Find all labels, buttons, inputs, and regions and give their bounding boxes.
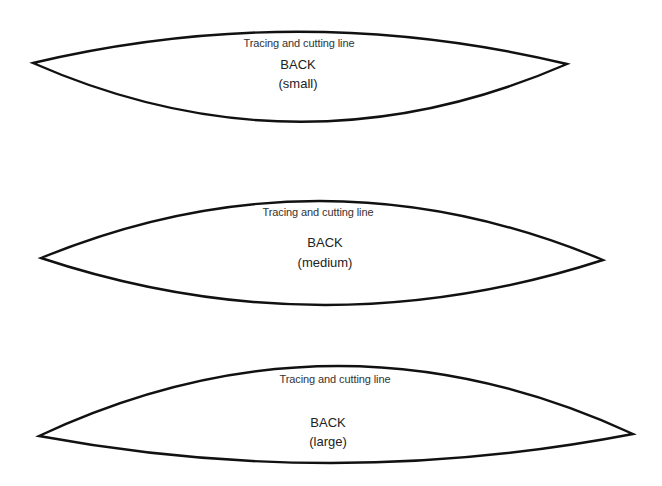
piece-title: BACK <box>280 58 315 71</box>
piece-title: BACK <box>307 236 342 249</box>
piece-size: (medium) <box>298 256 353 269</box>
tracing-line-label: Tracing and cutting line <box>280 374 391 385</box>
tracing-line-label: Tracing and cutting line <box>263 207 374 218</box>
piece-size: (large) <box>309 435 347 448</box>
tracing-line-label: Tracing and cutting line <box>244 38 355 49</box>
piece-size: (small) <box>279 77 318 90</box>
piece-title: BACK <box>310 416 345 429</box>
